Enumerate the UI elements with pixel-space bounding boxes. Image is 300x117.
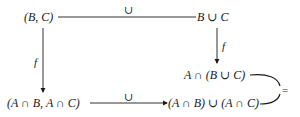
left-edge-label: f [34,56,37,68]
equality-label: = [282,84,288,96]
right-edge-label: f [222,40,225,52]
node-bottom-right: (A ∩ B) ∪ (A ∩ C) [168,96,259,110]
node-top-right: B ∪ C [197,10,228,24]
bottom-edge-label: ∪ [124,91,133,103]
top-edge-label: ∪ [124,4,133,16]
node-middle-right: A ∩ (B ∪ C) [184,68,245,82]
node-top-left: (B, C) [24,10,53,24]
node-bottom-left: (A ∩ B, A ∩ C) [7,96,80,110]
